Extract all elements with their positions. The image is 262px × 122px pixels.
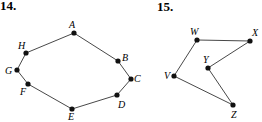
vertex-label-x: X (252, 28, 258, 38)
vertex-label-z: Z (231, 110, 237, 120)
octagon-vertex-dots (14, 30, 133, 111)
edge-fg (17, 70, 28, 84)
polygon-vwxyz-vertex-dots (171, 37, 252, 107)
edge-cd (117, 79, 131, 95)
edge-yz (208, 68, 233, 105)
octagon-edges (17, 33, 131, 109)
vertex-label-y: Y (203, 55, 209, 65)
edge-wx (197, 40, 250, 41)
edge-gh (17, 53, 26, 70)
edge-vw (174, 40, 197, 76)
vertex-dot-f (25, 81, 30, 86)
vertex-label-w: W (190, 27, 198, 37)
vertex-dot-w (194, 37, 199, 42)
vertex-dot-h (23, 50, 28, 55)
edge-de (72, 95, 117, 109)
vertex-label-a: A (69, 20, 75, 30)
edge-bc (118, 61, 131, 79)
worksheet-page: 14. 15. ABCDEFGH VWXYZ (0, 0, 262, 122)
vertex-label-f: F (20, 87, 26, 97)
vertex-label-h: H (18, 41, 25, 51)
vertex-label-g: G (5, 66, 12, 76)
vertex-label-d: D (118, 100, 125, 110)
polygon-vwxyz-edges (174, 40, 250, 105)
edge-ef (28, 84, 72, 109)
vertex-dot-z (230, 102, 235, 107)
edge-ha (26, 33, 74, 53)
vertex-dot-c (128, 76, 133, 81)
vertex-label-b: B (122, 53, 128, 63)
vertex-dot-b (115, 58, 120, 63)
edge-ab (74, 33, 118, 61)
vertex-dot-g (14, 67, 19, 72)
vertex-dot-a (71, 30, 76, 35)
edge-xy (208, 41, 250, 68)
vertex-dot-y (205, 65, 210, 70)
vertex-dot-v (171, 73, 176, 78)
vertex-label-e: E (68, 112, 74, 122)
vertex-label-c: C (134, 74, 141, 84)
vertex-dot-x (247, 38, 252, 43)
vertex-dot-d (114, 92, 119, 97)
vertex-label-v: V (164, 71, 170, 81)
edge-zv (174, 76, 233, 105)
geometry-figures (0, 0, 262, 122)
